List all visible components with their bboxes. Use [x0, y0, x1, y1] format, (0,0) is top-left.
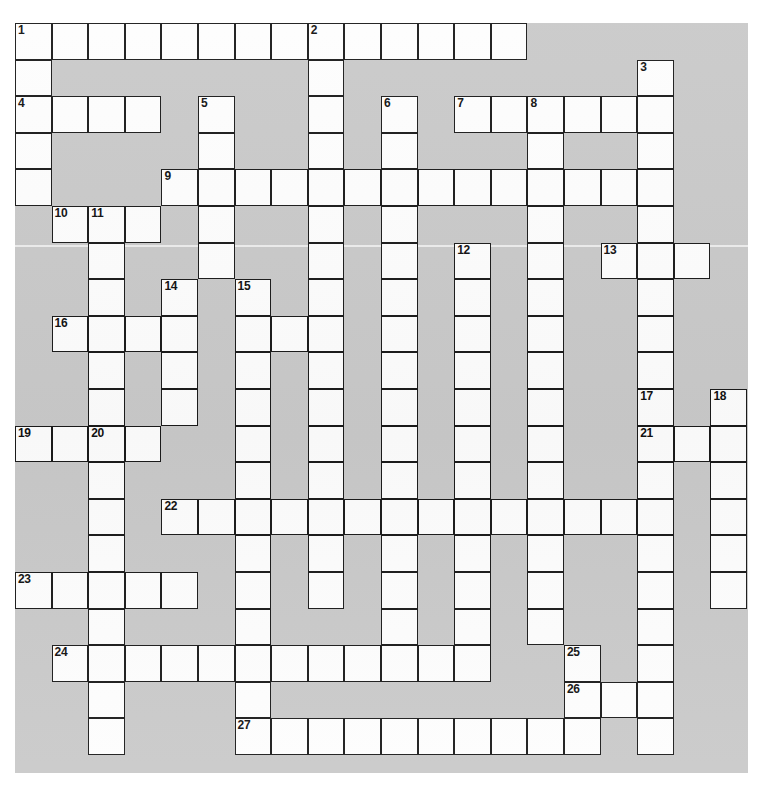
crossword-cell[interactable] — [381, 169, 418, 206]
crossword-cell[interactable] — [637, 462, 674, 499]
crossword-cell[interactable] — [235, 572, 272, 609]
crossword-cell[interactable] — [527, 609, 564, 646]
crossword-cell-21[interactable]: 21 — [637, 426, 674, 463]
crossword-cell[interactable] — [637, 352, 674, 389]
crossword-cell[interactable] — [88, 389, 125, 426]
crossword-cell-9[interactable]: 9 — [161, 169, 198, 206]
crossword-cell[interactable] — [235, 169, 272, 206]
crossword-cell-5[interactable]: 5 — [198, 96, 235, 133]
crossword-cell[interactable] — [308, 535, 345, 572]
crossword-cell[interactable] — [88, 499, 125, 536]
crossword-cell[interactable] — [381, 499, 418, 536]
crossword-cell[interactable] — [235, 316, 272, 353]
crossword-cell[interactable] — [308, 645, 345, 682]
crossword-cell[interactable] — [88, 316, 125, 353]
crossword-cell[interactable] — [527, 316, 564, 353]
crossword-cell[interactable] — [161, 23, 198, 60]
crossword-cell[interactable] — [637, 718, 674, 755]
crossword-cell[interactable] — [344, 499, 381, 536]
crossword-cell[interactable] — [381, 572, 418, 609]
crossword-cell[interactable] — [271, 645, 308, 682]
crossword-cell[interactable] — [454, 352, 491, 389]
crossword-cell[interactable] — [527, 279, 564, 316]
crossword-cell[interactable] — [88, 352, 125, 389]
crossword-cell[interactable] — [418, 718, 455, 755]
crossword-cell[interactable] — [418, 23, 455, 60]
crossword-cell[interactable] — [235, 682, 272, 719]
crossword-cell[interactable] — [88, 23, 125, 60]
crossword-cell[interactable] — [710, 426, 747, 463]
crossword-cell[interactable] — [527, 718, 564, 755]
crossword-cell[interactable] — [637, 96, 674, 133]
crossword-cell[interactable] — [454, 316, 491, 353]
crossword-cell[interactable] — [418, 499, 455, 536]
crossword-cell[interactable] — [381, 609, 418, 646]
crossword-cell[interactable] — [637, 243, 674, 280]
crossword-cell[interactable] — [308, 133, 345, 170]
crossword-cell[interactable] — [198, 645, 235, 682]
crossword-cell-1[interactable]: 1 — [15, 23, 52, 60]
crossword-cell[interactable] — [637, 133, 674, 170]
crossword-cell[interactable] — [235, 609, 272, 646]
crossword-cell[interactable] — [308, 243, 345, 280]
crossword-cell[interactable] — [161, 389, 198, 426]
crossword-cell[interactable] — [235, 462, 272, 499]
crossword-cell[interactable] — [527, 462, 564, 499]
crossword-cell[interactable] — [564, 169, 601, 206]
crossword-cell[interactable] — [235, 426, 272, 463]
crossword-cell[interactable] — [125, 645, 162, 682]
crossword-cell-3[interactable]: 3 — [637, 60, 674, 97]
crossword-cell[interactable] — [15, 169, 52, 206]
crossword-cell[interactable] — [418, 169, 455, 206]
crossword-cell[interactable] — [88, 645, 125, 682]
crossword-cell[interactable] — [271, 718, 308, 755]
crossword-cell-2[interactable]: 2 — [308, 23, 345, 60]
crossword-cell[interactable] — [601, 499, 638, 536]
crossword-cell[interactable] — [381, 133, 418, 170]
crossword-cell[interactable] — [637, 169, 674, 206]
crossword-cell[interactable] — [88, 96, 125, 133]
crossword-cell[interactable] — [198, 243, 235, 280]
crossword-cell[interactable] — [381, 243, 418, 280]
crossword-cell[interactable] — [161, 645, 198, 682]
crossword-cell[interactable] — [308, 206, 345, 243]
crossword-cell[interactable] — [637, 279, 674, 316]
crossword-cell-25[interactable]: 25 — [564, 645, 601, 682]
crossword-cell[interactable] — [454, 645, 491, 682]
crossword-cell[interactable] — [491, 96, 528, 133]
crossword-cell[interactable] — [527, 499, 564, 536]
crossword-cell[interactable] — [637, 535, 674, 572]
crossword-cell[interactable] — [674, 243, 711, 280]
crossword-cell[interactable] — [161, 352, 198, 389]
crossword-cell-23[interactable]: 23 — [15, 572, 52, 609]
crossword-cell[interactable] — [88, 462, 125, 499]
crossword-cell[interactable] — [308, 352, 345, 389]
crossword-cell[interactable] — [454, 718, 491, 755]
crossword-cell-17[interactable]: 17 — [637, 389, 674, 426]
crossword-cell[interactable] — [710, 499, 747, 536]
crossword-cell[interactable] — [527, 389, 564, 426]
crossword-cell[interactable] — [381, 23, 418, 60]
crossword-cell[interactable] — [344, 718, 381, 755]
crossword-cell[interactable] — [381, 316, 418, 353]
crossword-cell[interactable] — [308, 60, 345, 97]
crossword-cell-7[interactable]: 7 — [454, 96, 491, 133]
crossword-cell[interactable] — [125, 572, 162, 609]
crossword-cell[interactable] — [564, 718, 601, 755]
crossword-cell[interactable] — [235, 499, 272, 536]
crossword-cell[interactable] — [161, 572, 198, 609]
crossword-cell-13[interactable]: 13 — [601, 243, 638, 280]
crossword-cell[interactable] — [454, 499, 491, 536]
crossword-cell[interactable] — [527, 206, 564, 243]
crossword-cell[interactable] — [381, 426, 418, 463]
crossword-cell[interactable] — [88, 682, 125, 719]
crossword-cell[interactable] — [198, 206, 235, 243]
crossword-cell[interactable] — [564, 96, 601, 133]
crossword-cell-26[interactable]: 26 — [564, 682, 601, 719]
crossword-cell[interactable] — [271, 499, 308, 536]
crossword-cell[interactable] — [454, 572, 491, 609]
crossword-cell[interactable] — [527, 133, 564, 170]
crossword-cell[interactable] — [710, 572, 747, 609]
crossword-cell[interactable] — [88, 535, 125, 572]
crossword-cell[interactable] — [491, 499, 528, 536]
